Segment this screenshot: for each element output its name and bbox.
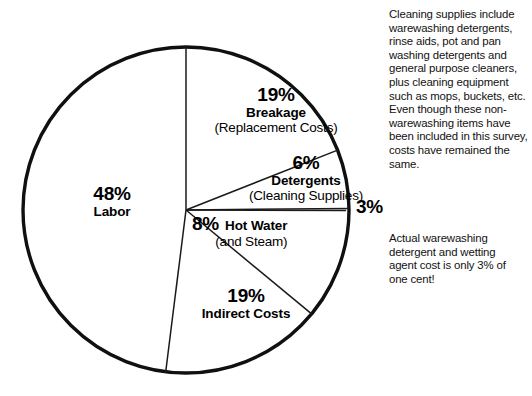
- slice-sublabel-hot-water: (and Steam): [192, 234, 287, 249]
- slice-value-detergents: 6%: [236, 152, 376, 173]
- slice-headline-hot-water: 8% Hot Water: [192, 213, 287, 234]
- slice-name-detergents: Detergents: [236, 173, 376, 188]
- slice-value-three-percent: 3%: [356, 196, 383, 217]
- slice-value-breakage: 19%: [196, 84, 356, 105]
- slice-name-hot-water: Hot Water: [225, 218, 287, 233]
- slice-label-labor: 48% Labor: [58, 183, 166, 219]
- slice-name-labor: Labor: [58, 204, 166, 219]
- slice-label-three-percent: 3%: [356, 196, 383, 217]
- note-actual-cost: Actual warewashing detergent and wetting…: [389, 232, 509, 286]
- slice-value-hot-water: 8%: [192, 213, 219, 234]
- slice-value-labor: 48%: [58, 183, 166, 204]
- note-cleaning-supplies: Cleaning supplies include warewashing de…: [389, 8, 529, 171]
- slice-label-hot-water: 8% Hot Water (and Steam): [192, 213, 287, 249]
- divider-three-hotwater: [186, 210, 346, 211]
- slice-sublabel-detergents: (Cleaning Supplies): [236, 188, 376, 203]
- slice-value-indirect-costs: 19%: [176, 285, 316, 306]
- slice-sublabel-breakage: (Replacement Costs): [196, 120, 356, 135]
- slice-label-detergents: 6% Detergents (Cleaning Supplies): [236, 152, 376, 203]
- slice-label-breakage: 19% Breakage (Replacement Costs): [196, 84, 356, 135]
- slice-name-breakage: Breakage: [196, 105, 356, 120]
- slice-name-indirect-costs: Indirect Costs: [176, 306, 316, 321]
- pie-chart-figure: 48% Labor 19% Breakage (Replacement Cost…: [0, 0, 532, 396]
- slice-label-indirect-costs: 19% Indirect Costs: [176, 285, 316, 321]
